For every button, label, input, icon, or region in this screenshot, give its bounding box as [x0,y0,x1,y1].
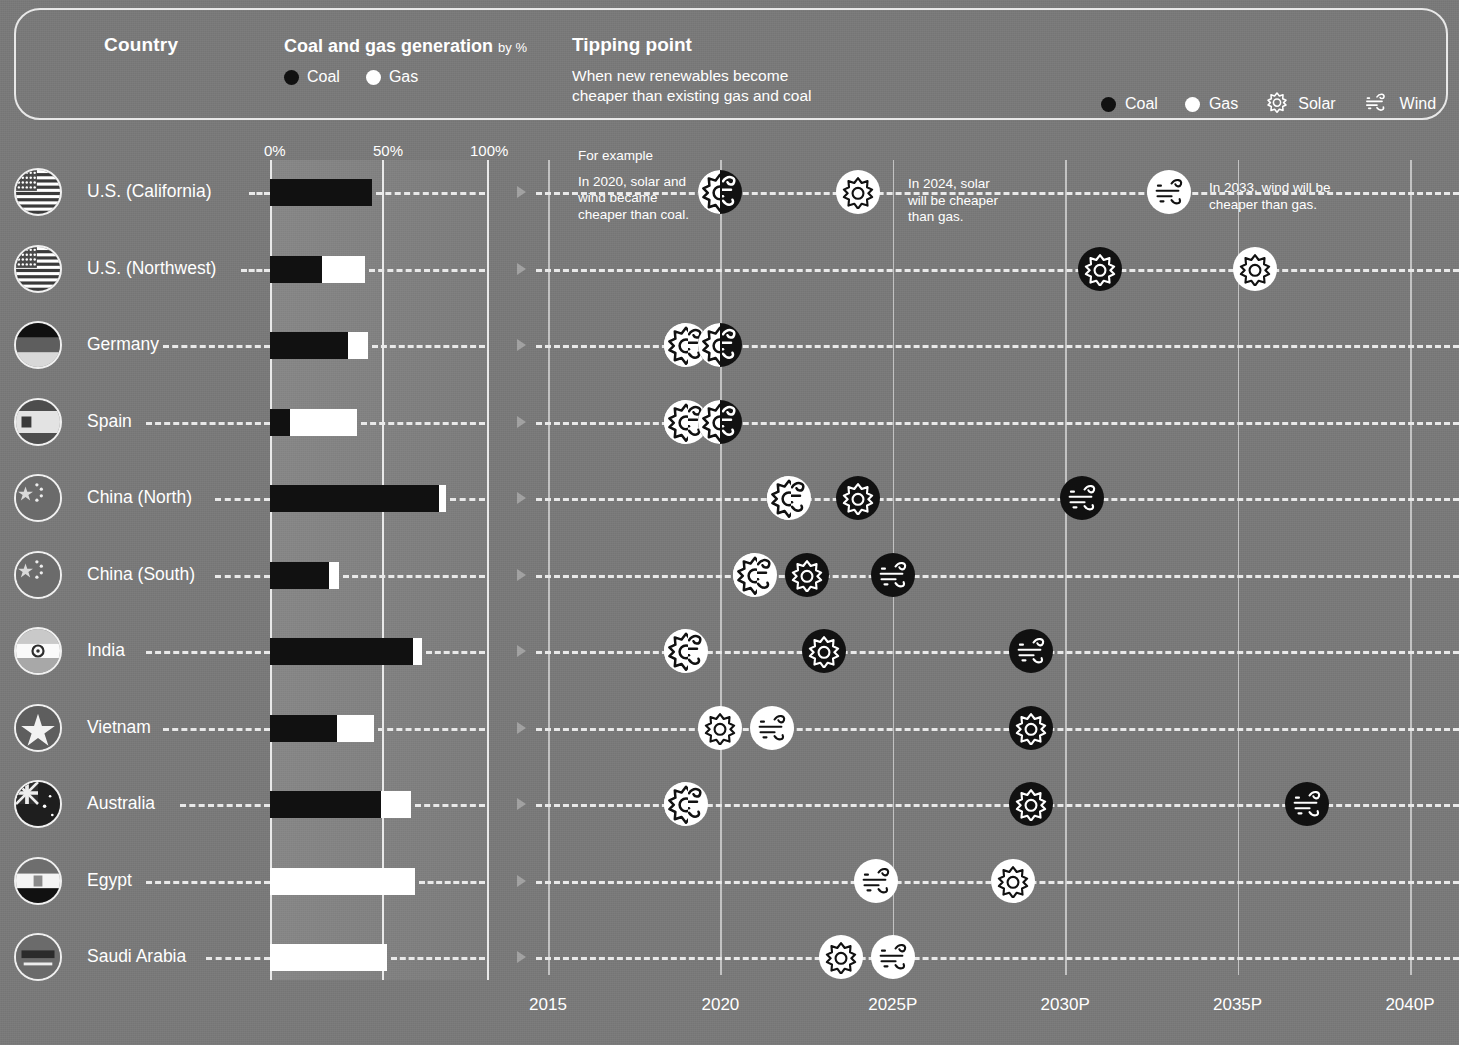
tipping-marker-u-s-northwest-solar-2035-5[interactable] [1233,247,1277,291]
tipping-marker-vietnam-solar-2020[interactable] [698,706,742,750]
timeline-gridline-2040P [1410,160,1412,975]
country-label-u-s-california: U.S. (California) [87,181,211,202]
legend2-coal-label: Coal [1125,95,1158,113]
tipping-marker-saudi-arabia-wind-2025[interactable] [871,935,915,979]
coal-dot-icon [1101,97,1116,112]
bar-trailing-dashes-saudi-arabia [391,957,485,960]
header-tipping-sub-line1: When new renewables become [572,66,812,86]
tipping-marker-china-south-solar-wind-2021[interactable] [733,553,777,597]
timeline-row-line-u-s-northwest [536,269,1459,272]
tipping-marker-china-north-solar-2024[interactable] [836,476,880,520]
annotation-3-line2: cheaper than gas. [1209,197,1359,214]
tipping-marker-u-s-california-wind-2033[interactable] [1147,170,1191,214]
annotation-2-line3: than gas. [908,209,1008,226]
bar-tick-0: 0% [264,142,286,159]
bar-coal-china-south [270,562,329,589]
timeline-gridline-2030P [1065,160,1067,975]
tipping-marker-egypt-solar-2028-5[interactable] [991,859,1035,903]
row-arrow-icon-germany [517,339,526,351]
coal-dot-icon [284,70,299,85]
country-label-china-north: China (North) [87,487,192,508]
tipping-marker-u-s-northwest-solar-2031[interactable] [1078,247,1122,291]
bar-trailing-dashes-germany [372,345,485,348]
tipping-marker-u-s-california-solar-wind-2020[interactable] [698,170,742,214]
tipping-marker-vietnam-solar-2029[interactable] [1009,706,1053,750]
row-arrow-icon-u-s-northwest [517,263,526,275]
header-tipping-sub-line2: cheaper than existing gas and coal [572,86,812,106]
tipping-marker-u-s-california-solar-2024[interactable] [836,170,880,214]
timeline-legend: Coal Gas Solar Wind [1101,90,1436,118]
bar-axis-50 [382,160,384,980]
bar-trailing-dashes-u-s-northwest [369,269,485,272]
header-tipping-subtitle: When new renewables become cheaper than … [572,66,812,106]
flag-icon-spain [14,398,62,446]
timeline-row-line-vietnam [536,728,1459,731]
flag-icon-egypt [14,857,62,905]
solar-icon [1265,90,1289,118]
bar-gas-china-north [439,485,446,512]
tipping-marker-spain-solar-wind-2020[interactable] [698,400,742,444]
country-label-saudi-arabia: Saudi Arabia [87,946,186,967]
header-country-title: Country [104,34,178,56]
leader-dashes-egypt [146,881,270,884]
country-label-u-s-northwest: U.S. (Northwest) [87,258,216,279]
leader-dashes-saudi-arabia [206,957,270,960]
row-arrow-icon-china-north [517,492,526,504]
row-arrow-icon-india [517,645,526,657]
leader-dashes-china-south [215,575,270,578]
annotation-2: In 2024, solar will be cheaper than gas. [908,176,1008,226]
tipping-marker-australia-wind-2037[interactable] [1285,782,1329,826]
bar-trailing-dashes-vietnam [378,728,485,731]
country-label-china-south: China (South) [87,564,195,585]
tipping-marker-india-solar-2023[interactable] [802,629,846,673]
bar-tick-50: 50% [373,142,403,159]
tipping-marker-india-solar-wind-2019[interactable] [664,629,708,673]
annotation-example-label: For example [578,148,696,165]
tipping-marker-germany-solar-wind-2020[interactable] [698,323,742,367]
flag-icon-china-north [14,474,62,522]
tipping-marker-saudi-arabia-solar-2023-5[interactable] [819,935,863,979]
header-tipping-title: Tipping point [572,34,692,56]
bar-axis-100 [487,160,489,980]
row-arrow-icon-saudi-arabia [517,951,526,963]
tipping-marker-australia-solar-2029[interactable] [1009,782,1053,826]
tipping-marker-india-wind-2029[interactable] [1009,629,1053,673]
annotation-2-line1: In 2024, solar [908,176,1008,193]
legend2-solar-label: Solar [1298,95,1335,113]
leader-dashes-vietnam [163,728,270,731]
legend2-gas-label: Gas [1209,95,1238,113]
bar-gas-australia [381,791,411,818]
bar-trailing-dashes-spain [361,422,485,425]
tipping-marker-china-south-solar-2022-5[interactable] [785,553,829,597]
bar-coal-australia [270,791,381,818]
timeline-tick-2015: 2015 [529,995,567,1015]
timeline-tick-2040P: 2040P [1385,995,1434,1015]
tipping-marker-china-north-solar-wind-2022[interactable] [767,476,811,520]
timeline-gridline-2020 [720,160,722,975]
row-arrow-icon-china-south [517,569,526,581]
bar-tick-100: 100% [470,142,508,159]
flag-icon-china-south [14,551,62,599]
leader-dashes-china-north [215,498,270,501]
tipping-marker-china-south-wind-2025[interactable] [871,553,915,597]
tipping-marker-australia-solar-wind-2019[interactable] [664,782,708,826]
bar-gas-saudi-arabia [270,944,387,971]
tipping-marker-egypt-wind-2024-5[interactable] [854,859,898,903]
timeline-tick-2030P: 2030P [1041,995,1090,1015]
tipping-marker-china-north-wind-2030-5[interactable] [1060,476,1104,520]
timeline-tick-2025P: 2025P [868,995,917,1015]
bar-gas-china-south [329,562,340,589]
timeline-row-line-china-south [536,575,1459,578]
country-label-india: India [87,640,125,661]
gas-dot-icon [366,70,381,85]
bar-coal-india [270,638,413,665]
header-coalgas-text: Coal and gas generation [284,36,493,56]
timeline-tick-2020: 2020 [701,995,739,1015]
flag-icon-u-s-northwest [14,245,62,293]
flag-icon-vietnam [14,704,62,752]
bar-gas-egypt [270,868,415,895]
leader-dashes-australia [180,804,270,807]
bar-gas-spain [290,409,357,436]
country-label-germany: Germany [87,334,159,355]
tipping-marker-vietnam-wind-2021-5[interactable] [750,706,794,750]
